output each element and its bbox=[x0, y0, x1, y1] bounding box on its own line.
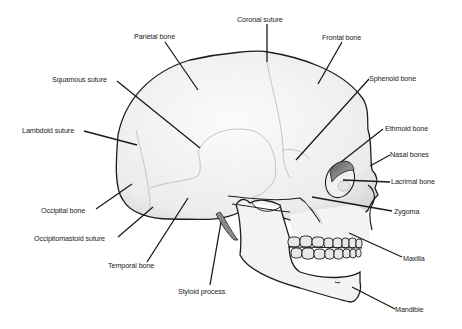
label-coronal-suture: Coronal suture bbox=[237, 16, 283, 23]
label-lambdoid-suture: Lambdoid suture bbox=[22, 127, 74, 134]
label-occipital-bone: Occipital bone bbox=[41, 207, 85, 214]
label-frontal-bone: Frontal bone bbox=[322, 34, 361, 41]
label-sphenoid-bone: Sphenoid bone bbox=[369, 75, 416, 82]
label-zygoma: Zygoma bbox=[394, 208, 419, 215]
label-squamous-suture: Squamous suture bbox=[52, 76, 107, 83]
label-maxilla: Maxilla bbox=[403, 255, 425, 262]
label-styloid-process: Styloid process bbox=[178, 288, 225, 295]
label-parietal-bone: Parietal bone bbox=[134, 33, 175, 40]
label-nasal-bones: Nasal bones bbox=[390, 151, 429, 158]
label-ethmoid-bone: Ethmoid bone bbox=[385, 125, 428, 132]
label-temporal-bone: Temporal bone bbox=[108, 262, 154, 269]
label-mandible: Mandible bbox=[395, 306, 423, 313]
skull-diagram: Parietal bone Coronal suture Frontal bon… bbox=[0, 0, 462, 329]
teeth-lower bbox=[291, 248, 361, 259]
label-lacrimal-bone: Lacrimal bone bbox=[391, 178, 435, 185]
skull-illustration bbox=[0, 0, 462, 329]
label-occipitomastoid-suture: Occipitomastoid suture bbox=[34, 235, 105, 242]
